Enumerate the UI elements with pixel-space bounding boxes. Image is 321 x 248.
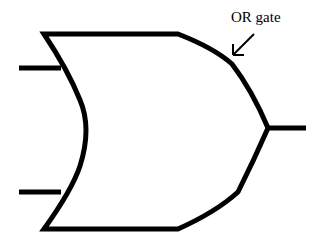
or-gate-body (44, 34, 268, 229)
annotation-label: OR gate (231, 9, 281, 26)
annotation-arrow-icon (233, 34, 254, 55)
or-gate-svg (0, 0, 321, 248)
